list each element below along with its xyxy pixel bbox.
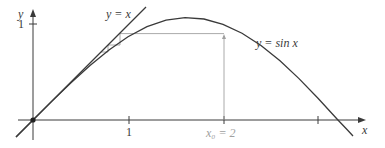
sine-curve — [16, 18, 353, 137]
y-axis-arrow-icon — [30, 9, 36, 17]
fixed-point-iteration-diagram: y 1 1 x₀ = 2 x y = x y = sin x — [0, 0, 385, 148]
y-tick-label-1: 1 — [18, 17, 24, 31]
x-axis — [18, 116, 366, 124]
x-axis-label: x — [361, 123, 368, 137]
sine-label: y = sin x — [255, 36, 298, 50]
iteration-path — [101, 34, 226, 120]
fixed-point-dot — [30, 117, 35, 122]
x-tick-label-1: 1 — [126, 125, 132, 139]
identity-label: y = x — [105, 7, 131, 21]
x0-label: x₀ = 2 — [205, 126, 236, 140]
